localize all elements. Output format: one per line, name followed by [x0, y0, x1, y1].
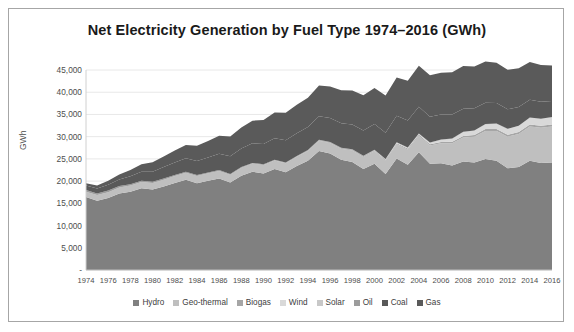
y-axis-tick-label: 35,000 [18, 109, 82, 119]
y-axis-tick-label: 40,000 [18, 87, 82, 97]
x-axis-tick-label: 2006 [433, 276, 450, 285]
legend-item[interactable]: Hydro [133, 298, 164, 307]
x-axis-tick-label: 1986 [211, 276, 228, 285]
x-axis-tick-label: 1998 [344, 276, 361, 285]
legend-swatch-icon [237, 300, 243, 306]
legend-item[interactable]: Biogas [237, 298, 271, 307]
x-axis-tick-label: 1978 [122, 276, 139, 285]
y-axis-tick-label: 15,000 [18, 198, 82, 208]
x-axis-tick-label: 1982 [166, 276, 183, 285]
x-axis-tick-label: 1974 [78, 276, 95, 285]
legend-label: Coal [391, 298, 408, 307]
y-axis-tick-label: 5,000 [18, 243, 82, 253]
legend-item[interactable]: Coal [382, 298, 408, 307]
x-axis-tick-label: 1996 [322, 276, 339, 285]
x-axis-tick-label: 1992 [277, 276, 294, 285]
legend-label: Biogas [246, 298, 271, 307]
legend-item[interactable]: Geo-thermal [173, 298, 228, 307]
x-axis-tick-label: 2002 [388, 276, 405, 285]
legend-swatch-icon [317, 300, 323, 306]
x-axis-tick-label: 1984 [188, 276, 205, 285]
x-axis-tick-label: 1994 [299, 276, 316, 285]
legend-swatch-icon [280, 300, 286, 306]
chart-legend: HydroGeo-thermalBiogasWindSolarOilCoalGa… [0, 298, 574, 307]
x-axis-tick-label: 1988 [233, 276, 250, 285]
legend-swatch-icon [173, 300, 179, 306]
y-axis-tick-labels: -5,00010,00015,00020,00025,00030,00035,0… [18, 0, 82, 332]
legend-item[interactable]: Gas [417, 298, 441, 307]
legend-label: Oil [363, 298, 373, 307]
legend-item[interactable]: Oil [354, 298, 373, 307]
legend-item[interactable]: Solar [317, 298, 345, 307]
x-axis-tick-label: 2004 [410, 276, 427, 285]
y-axis-tick-label: - [18, 265, 82, 275]
y-axis-tick-label: 30,000 [18, 132, 82, 142]
legend-item[interactable]: Wind [280, 298, 308, 307]
x-axis-tick-label: 2008 [455, 276, 472, 285]
x-axis-tick-label: 2010 [477, 276, 494, 285]
legend-swatch-icon [417, 300, 423, 306]
legend-swatch-icon [354, 300, 360, 306]
x-axis-tick-label: 2016 [544, 276, 561, 285]
x-axis-tick-label: 2014 [521, 276, 538, 285]
x-axis-tick-label: 2012 [499, 276, 516, 285]
x-axis-tick-label: 2000 [366, 276, 383, 285]
legend-label: Solar [326, 298, 345, 307]
y-axis-tick-label: 45,000 [18, 65, 82, 75]
legend-swatch-icon [133, 300, 139, 306]
x-axis-tick-label: 1980 [144, 276, 161, 285]
legend-label: Geo-thermal [182, 298, 228, 307]
y-axis-tick-label: 20,000 [18, 176, 82, 186]
y-axis-tick-label: 25,000 [18, 154, 82, 164]
legend-label: Wind [289, 298, 308, 307]
legend-label: Gas [426, 298, 441, 307]
y-axis-tick-label: 10,000 [18, 221, 82, 231]
x-axis-tick-label: 1976 [100, 276, 117, 285]
legend-label: Hydro [142, 298, 164, 307]
legend-swatch-icon [382, 300, 388, 306]
x-axis-tick-labels: 1974197619781980198219841986198819901992… [86, 276, 552, 290]
x-axis-tick-label: 1990 [255, 276, 272, 285]
